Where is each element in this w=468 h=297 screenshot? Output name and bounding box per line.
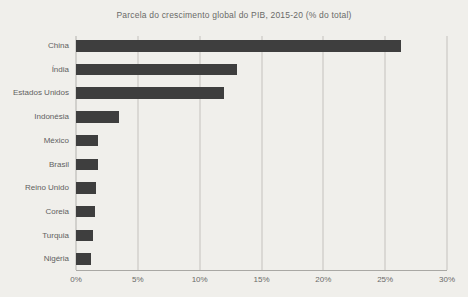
bar-turquia: [76, 230, 93, 242]
category-label-mexico: México: [0, 135, 76, 147]
chart-figure: Parcela do crescimento global do PIB, 20…: [0, 0, 468, 297]
x-tick-label-20%: 20%: [315, 275, 331, 284]
chart-title: Parcela do crescimento global do PIB, 20…: [0, 10, 468, 20]
x-tick-label-10%: 10%: [192, 275, 208, 284]
category-label-brasil: Brasil: [0, 159, 76, 171]
bar-india: [76, 64, 237, 76]
category-label-india: Índia: [0, 64, 76, 76]
plot-area: 0%5%10%15%20%25%30%ChinaÍndiaEstados Uni…: [76, 36, 447, 271]
bar-brasil: [76, 159, 98, 171]
bar-estados-unidos: [76, 87, 224, 99]
category-label-indonesia: Indonésia: [0, 111, 76, 123]
category-label-coreia: Coreia: [0, 206, 76, 218]
category-label-estados-unidos: Estados Unidos: [0, 87, 76, 99]
category-label-turquia: Turquia: [0, 230, 76, 242]
x-tick-label-15%: 15%: [253, 275, 269, 284]
category-label-china: China: [0, 40, 76, 52]
x-tick-label-25%: 25%: [377, 275, 393, 284]
category-label-reino-unido: Reino Unido: [0, 182, 76, 194]
bar-mexico: [76, 135, 98, 147]
gridline-30%: [447, 36, 448, 270]
bar-indonesia: [76, 111, 119, 123]
x-tick-label-5%: 5%: [132, 275, 144, 284]
bar-nigeria: [76, 253, 91, 265]
x-tick-label-30%: 30%: [439, 275, 455, 284]
gridline-20%: [323, 36, 324, 270]
gridline-15%: [261, 36, 262, 270]
bar-reino-unido: [76, 182, 96, 194]
gridline-25%: [385, 36, 386, 270]
category-label-nigeria: Nigéria: [0, 253, 76, 265]
bar-china: [76, 40, 401, 52]
x-tick-label-0%: 0%: [70, 275, 82, 284]
bar-coreia: [76, 206, 95, 218]
